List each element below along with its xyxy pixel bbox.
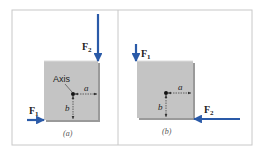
- caption-b: (b): [162, 127, 172, 136]
- dim-b-label: b: [65, 103, 70, 113]
- dim-a-label: a: [178, 82, 183, 92]
- axis-point: [164, 91, 168, 95]
- axis-label: Axis: [53, 74, 71, 84]
- panel-a: Axis a b F1 F2 (a): [27, 14, 100, 138]
- force-f2-label: F2: [204, 104, 214, 117]
- caption-a: (a): [63, 129, 73, 138]
- dim-b-label: b: [158, 102, 163, 112]
- torque-diagram: Axis a b F1 F2 (a) a b F1 F2 (b): [0, 0, 264, 155]
- panel-b: a b F1 F2 (b): [136, 44, 240, 136]
- dim-a-label: a: [84, 83, 89, 93]
- force-f1-label: F1: [29, 105, 39, 118]
- force-f1-label: F1: [141, 48, 151, 61]
- axis-point: [71, 92, 75, 96]
- force-f2-label: F2: [82, 41, 92, 54]
- block-b: [137, 61, 193, 118]
